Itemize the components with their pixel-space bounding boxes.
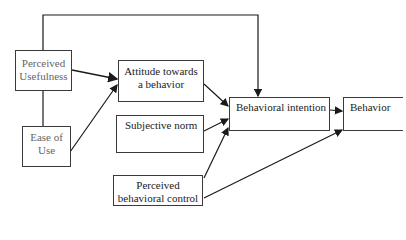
node-label-line: behavioral control xyxy=(114,192,202,205)
edge-ease-to-attitude xyxy=(70,85,117,152)
edge-norm-to-intention xyxy=(204,119,228,131)
edge-control-to-behavior xyxy=(204,130,342,198)
node-label-line: Ease of xyxy=(23,131,70,144)
node-behavior: Behavior xyxy=(343,97,403,131)
node-label-line: Behavior xyxy=(350,101,403,114)
node-perceived-usefulness: Perceived Usefulness xyxy=(15,50,72,91)
edge-intention-to-behavior xyxy=(330,110,342,111)
edge-attitude-to-intention xyxy=(204,84,228,106)
node-label-line: a behavior xyxy=(119,78,203,91)
node-label-line: Attitude towards xyxy=(119,65,203,78)
node-label-line: Perceived xyxy=(114,179,202,192)
edge-control-to-intention xyxy=(204,128,228,178)
node-label-line: Usefulness xyxy=(16,70,71,83)
node-label-line: Subjective norm xyxy=(125,119,203,132)
node-label-line: Use xyxy=(23,144,70,157)
node-label-line: Perceived xyxy=(16,57,71,70)
node-subjective-norm: Subjective norm xyxy=(116,115,204,153)
node-perceived-behavioral-control: Perceived behavioral control xyxy=(113,175,203,206)
node-ease-of-use: Ease of Use xyxy=(22,126,71,167)
node-attitude: Attitude towards a behavior xyxy=(118,60,204,102)
node-behavioral-intention: Behavioral intention xyxy=(229,97,330,131)
edge-usefulness-to-attitude xyxy=(72,70,117,79)
node-label-line: Behavioral intention xyxy=(236,101,329,114)
